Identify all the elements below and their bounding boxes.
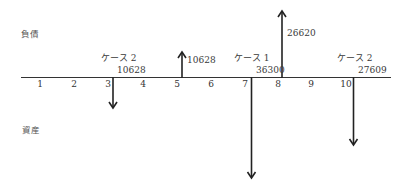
period-label-2: 2 xyxy=(71,80,77,89)
period-label-9: 9 xyxy=(308,80,314,89)
period-label-8: 8 xyxy=(275,80,281,89)
value-label-period-8: 26620 xyxy=(287,29,316,38)
cash-flow-timeline-diagram: 負債 資産 ケース 2 10628 10628 ケース 1 36300 2662… xyxy=(0,0,407,191)
assets-label: 資産 xyxy=(22,126,40,135)
case-label-period-3: ケース 2 xyxy=(101,54,137,63)
period-label-10: 10 xyxy=(340,80,351,89)
period-label-6: 6 xyxy=(208,80,214,89)
period-label-4: 4 xyxy=(140,80,146,89)
case-label-period-10: ケース 2 xyxy=(337,54,373,63)
liabilities-label: 負債 xyxy=(21,30,39,39)
value-label-period-5: 10628 xyxy=(187,56,216,65)
arrow-up-period-5-icon xyxy=(178,52,186,78)
period-label-1: 1 xyxy=(37,80,43,89)
arrow-down-period-7-icon xyxy=(248,77,256,178)
value-label-period-7: 36300 xyxy=(256,66,285,75)
timeline-graphics xyxy=(0,0,407,191)
period-label-7: 7 xyxy=(242,80,248,89)
period-label-3: 3 xyxy=(105,80,111,89)
period-label-5: 5 xyxy=(174,80,180,89)
case-label-period-7: ケース 1 xyxy=(234,54,270,63)
value-label-period-3: 10628 xyxy=(117,66,146,75)
value-label-period-10: 27609 xyxy=(358,66,387,75)
